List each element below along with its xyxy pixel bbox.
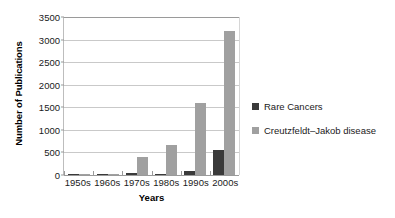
y-tick-label: 2500 xyxy=(39,57,60,68)
bar xyxy=(126,173,137,175)
bar xyxy=(166,145,177,175)
bar xyxy=(79,174,90,175)
y-tick-label: 1500 xyxy=(39,102,60,113)
bar xyxy=(108,174,119,175)
bar xyxy=(137,157,148,175)
x-tick-mark xyxy=(181,171,182,175)
bar-group xyxy=(181,17,210,175)
x-tick-label: 2000s xyxy=(211,177,241,188)
bar-group xyxy=(152,17,181,175)
x-tick-mark xyxy=(210,171,211,175)
bar-group xyxy=(93,17,122,175)
bar xyxy=(224,31,235,175)
x-tick-label: 1950s xyxy=(63,177,93,188)
y-tick-label: 500 xyxy=(44,147,60,158)
x-tick-mark xyxy=(122,171,123,175)
bar xyxy=(213,150,224,175)
bar-group xyxy=(122,17,151,175)
bar xyxy=(195,103,206,175)
legend-label: Rare Cancers xyxy=(264,101,323,112)
bar-group xyxy=(64,17,93,175)
bar xyxy=(68,174,79,175)
y-tick-label: 0 xyxy=(55,170,60,181)
legend-item[interactable]: Rare Cancers xyxy=(252,101,376,112)
bar xyxy=(155,174,166,175)
chart-legend: Rare CancersCreutzfeldt–Jakob disease xyxy=(252,101,376,149)
x-tick-label: 1960s xyxy=(93,177,123,188)
y-tick-label: 2000 xyxy=(39,79,60,90)
bar xyxy=(97,174,108,175)
legend-item[interactable]: Creutzfeldt–Jakob disease xyxy=(252,125,376,136)
legend-label: Creutzfeldt–Jakob disease xyxy=(264,125,376,136)
x-tick-label: 1970s xyxy=(122,177,152,188)
y-axis-title: Number of Publications xyxy=(13,24,24,164)
gridline xyxy=(64,175,239,176)
bar-group xyxy=(210,17,239,175)
x-tick-label: 1980s xyxy=(152,177,182,188)
y-tick-label: 3000 xyxy=(39,34,60,45)
legend-swatch-icon xyxy=(252,127,259,134)
bar xyxy=(184,171,195,175)
x-tick-mark xyxy=(64,171,65,175)
legend-swatch-icon xyxy=(252,103,259,110)
x-tick-mark xyxy=(152,171,153,175)
y-tick-label: 3500 xyxy=(39,12,60,23)
x-axis-tick-labels: 1950s1960s1970s1980s1990s2000s xyxy=(63,177,240,188)
plot-area: 0500100015002000250030003500 xyxy=(63,17,240,175)
x-axis-title: Years xyxy=(63,192,240,203)
bar-chart: Number of Publications 05001000150020002… xyxy=(0,0,395,218)
bars-layer xyxy=(64,17,239,175)
x-tick-label: 1990s xyxy=(181,177,211,188)
x-tick-mark xyxy=(93,171,94,175)
y-tick-label: 1000 xyxy=(39,124,60,135)
